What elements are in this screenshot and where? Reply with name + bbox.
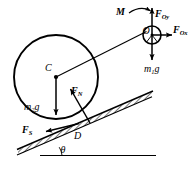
pulley-center-label: O <box>143 25 150 36</box>
contact-point-label: D <box>73 130 82 141</box>
FOx-label: FOx <box>172 24 188 36</box>
m1g-label: m1g <box>144 63 159 75</box>
force-FOx: FOx <box>153 24 188 36</box>
m2g-label: m2g <box>24 101 39 113</box>
cord-line <box>56 32 147 78</box>
diagram-canvas: θ C m2g FN FS D <box>0 0 195 172</box>
moment-curved-arrow <box>129 8 151 13</box>
free-body-diagram: θ C m2g FN FS D <box>0 0 195 172</box>
moment-label: M <box>115 6 126 17</box>
incline-surface-line <box>17 91 153 150</box>
FN-label: FN <box>70 85 83 97</box>
incline-angle-label: θ <box>61 144 66 155</box>
FOy-label: FOy <box>154 8 169 20</box>
FS-label: FS <box>21 124 33 136</box>
cylinder-center-label: C <box>45 62 52 73</box>
moment-M: M <box>115 6 151 17</box>
force-m2g: m2g <box>24 78 56 115</box>
